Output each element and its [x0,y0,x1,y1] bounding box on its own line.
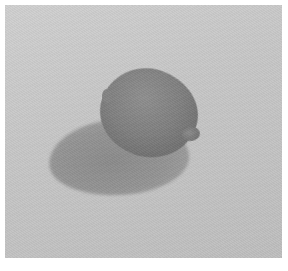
photograph [5,5,282,258]
lemon-end [102,89,112,103]
